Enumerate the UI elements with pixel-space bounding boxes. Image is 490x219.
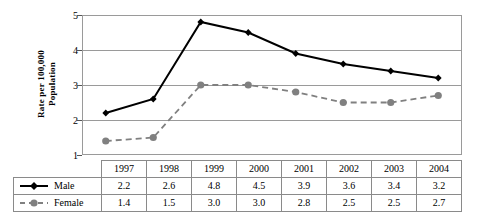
legend-item-female[interactable]: Female: [14, 195, 102, 212]
table-cell-female-2003: 2.5: [371, 195, 416, 212]
table-cell-female-1999: 3.0: [192, 195, 237, 212]
table-row: Male2.22.64.84.53.93.63.43.2: [14, 178, 462, 195]
table-cell-male-2001: 3.9: [281, 178, 326, 195]
data-point-female-2000: [245, 81, 252, 88]
data-point-male-2001: [292, 50, 299, 57]
line-chart-figure: Rate per 100,000 Population 12345 199719…: [0, 0, 490, 219]
table-cell-female-1998: 1.5: [147, 195, 192, 212]
data-point-male-2003: [387, 68, 394, 75]
data-point-male-2002: [340, 61, 347, 68]
table-cell-female-2001: 2.8: [281, 195, 326, 212]
data-table: 19971998199920002001200220032004 Male2.2…: [13, 160, 462, 212]
plot-area: [82, 15, 462, 155]
data-point-female-1998: [150, 134, 157, 141]
table-cell-male-2003: 3.4: [371, 178, 416, 195]
table-cell-male-1997: 2.2: [102, 178, 147, 195]
table-cell-male-2004: 3.2: [416, 178, 461, 195]
table-year-header-1998: 1998: [147, 161, 192, 178]
table-year-header-2000: 2000: [236, 161, 281, 178]
table-body: Male2.22.64.84.53.93.63.43.2Female1.41.5…: [14, 178, 462, 212]
y-tick-label-3: 3: [60, 80, 78, 91]
table-header-corner: [14, 161, 102, 178]
data-point-male-2004: [435, 75, 442, 82]
legend-label-male: Male: [54, 179, 75, 193]
table-year-header-2001: 2001: [281, 161, 326, 178]
table-year-header-1997: 1997: [102, 161, 147, 178]
y-axis-tick-labels: 12345: [58, 15, 82, 155]
table-year-header-2002: 2002: [326, 161, 371, 178]
legend-item-male[interactable]: Male: [14, 178, 102, 195]
data-point-female-2003: [387, 99, 394, 106]
data-point-female-1999: [197, 81, 204, 88]
legend-swatch-female: [19, 197, 49, 209]
data-point-male-1997: [102, 110, 109, 117]
data-point-male-2000: [245, 29, 252, 36]
legend-swatch-male: [19, 180, 49, 192]
table-cell-female-1997: 1.4: [102, 195, 147, 212]
y-tick-label-2: 2: [60, 115, 78, 126]
table-cell-male-2002: 3.6: [326, 178, 371, 195]
table-year-header-2004: 2004: [416, 161, 461, 178]
data-point-female-2001: [292, 88, 299, 95]
y-tick-label-5: 5: [60, 10, 78, 21]
y-tick-label-1: 1: [60, 150, 78, 161]
data-point-female-2004: [435, 92, 442, 99]
table-cell-female-2000: 3.0: [236, 195, 281, 212]
table-cell-male-1999: 4.8: [192, 178, 237, 195]
table-cell-female-2004: 2.7: [416, 195, 461, 212]
table-row: Female1.41.53.03.02.82.52.52.7: [14, 195, 462, 212]
series-plot: [82, 15, 462, 155]
y-tick-label-4: 4: [60, 45, 78, 56]
table-cell-male-1998: 2.6: [147, 178, 192, 195]
data-point-female-1997: [102, 137, 109, 144]
table-cell-female-2002: 2.5: [326, 195, 371, 212]
table-cell-male-2000: 4.5: [236, 178, 281, 195]
table-header-row: 19971998199920002001200220032004: [14, 161, 462, 178]
y-axis-title-line2: Population: [47, 50, 58, 118]
legend-label-female: Female: [54, 196, 83, 210]
y-tick-mark-1: [77, 155, 82, 156]
table-year-header-2003: 2003: [371, 161, 416, 178]
y-axis-title-line1: Rate per 100,000: [36, 50, 47, 118]
data-point-female-2002: [340, 99, 347, 106]
table-year-header-1999: 1999: [192, 161, 237, 178]
